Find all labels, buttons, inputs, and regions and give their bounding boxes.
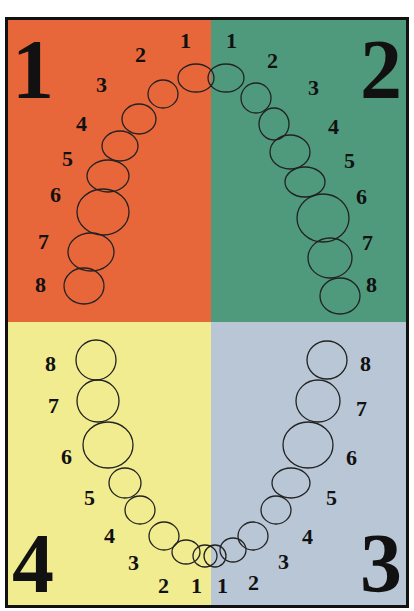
tooth-number: 2 <box>248 572 259 594</box>
tooth-number: 2 <box>135 44 146 66</box>
tooth-number: 1 <box>226 30 237 52</box>
tooth-number: 8 <box>360 353 371 375</box>
tooth-number: 4 <box>104 525 115 547</box>
tooth-number: 7 <box>38 231 49 253</box>
tooth-number: 4 <box>76 113 87 135</box>
tooth-number: 7 <box>48 395 59 417</box>
tooth-number: 8 <box>35 274 46 296</box>
tooth-number: 5 <box>326 487 337 509</box>
tooth-number: 1 <box>180 30 191 52</box>
tooth-number: 1 <box>217 575 228 597</box>
tooth-number: 8 <box>45 353 56 375</box>
dental-chart-frame: 1 2 3 4 1 2 3 4 5 6 7 8 1 2 3 4 5 6 7 8 … <box>5 17 409 608</box>
tooth-number: 4 <box>302 526 313 548</box>
tooth-number: 5 <box>62 148 73 170</box>
quadrant-2-label: 2 <box>360 28 402 112</box>
tooth-number: 7 <box>362 232 373 254</box>
tooth-number: 4 <box>328 116 339 138</box>
tooth-number: 3 <box>308 77 319 99</box>
tooth-number: 1 <box>191 575 202 597</box>
quadrant-3-label: 3 <box>360 522 402 606</box>
tooth-number: 3 <box>128 552 139 574</box>
tooth-number: 2 <box>267 50 278 72</box>
tooth-number: 6 <box>50 184 61 206</box>
tooth-number: 6 <box>346 447 357 469</box>
tooth-number: 5 <box>344 150 355 172</box>
tooth-number: 2 <box>158 575 169 597</box>
quadrant-1-label: 1 <box>12 28 54 112</box>
tooth-number: 6 <box>356 186 367 208</box>
tooth-number: 8 <box>366 274 377 296</box>
quadrant-4-label: 4 <box>12 522 54 606</box>
tooth-number: 5 <box>84 487 95 509</box>
tooth-number: 3 <box>96 74 107 96</box>
tooth-number: 6 <box>61 446 72 468</box>
tooth-number: 7 <box>356 398 367 420</box>
teeth-outline-diagram <box>8 20 406 605</box>
tooth-number: 3 <box>278 551 289 573</box>
